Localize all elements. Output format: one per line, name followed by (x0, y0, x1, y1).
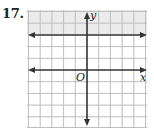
x-axis-label: x (140, 71, 147, 84)
y-axis-label: y (89, 9, 97, 22)
coordinate-graph: y x O (0, 0, 154, 134)
origin-label: O (76, 71, 85, 84)
